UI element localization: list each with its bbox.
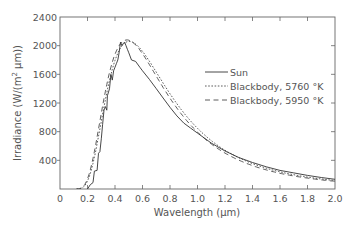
series-blackbody-5950-k xyxy=(77,40,336,189)
x-tick-label: 0.6 xyxy=(135,193,150,204)
y-tick-label: 2000 xyxy=(33,40,57,51)
series-blackbody-5760-k xyxy=(77,41,336,189)
legend-sun-label: Sun xyxy=(230,67,248,78)
x-tick-label: 1.0 xyxy=(190,193,205,204)
y-tick-label: 1200 xyxy=(33,98,57,109)
x-axis-label: Wavelength (µm) xyxy=(154,207,241,218)
y-tick-label: 2400 xyxy=(33,12,57,23)
legend-bb5950-label: Blackbody, 5950 °K xyxy=(230,95,324,106)
x-tick-label: 1.2 xyxy=(217,193,232,204)
x-tick-label: 1.6 xyxy=(272,193,287,204)
legend: Sun Blackbody, 5760 °K Blackbody, 5950 °… xyxy=(205,67,324,106)
x-tick-label: 0.2 xyxy=(80,193,95,204)
y-axis-label: Irradiance (W/(m2 µm)) xyxy=(11,45,23,161)
x-tick-label: 0.8 xyxy=(162,193,177,204)
x-tick-label: 0.4 xyxy=(107,193,122,204)
series-sun xyxy=(88,42,336,189)
x-tick-label: 0 xyxy=(57,193,63,204)
x-tick-label: 2.0 xyxy=(327,193,342,204)
axis-ticks: 00.20.40.60.81.01.21.41.61.82.0400800120… xyxy=(33,12,343,205)
series-layer xyxy=(77,40,336,189)
y-tick-label: 800 xyxy=(39,126,57,137)
x-tick-label: 1.4 xyxy=(245,193,260,204)
x-tick-label: 1.8 xyxy=(300,193,315,204)
y-tick-label: 400 xyxy=(39,155,57,166)
legend-bb5760-label: Blackbody, 5760 °K xyxy=(230,81,324,92)
irradiance-chart: 00.20.40.60.81.01.21.41.61.82.0400800120… xyxy=(0,0,357,230)
y-tick-label: 1600 xyxy=(33,69,57,80)
